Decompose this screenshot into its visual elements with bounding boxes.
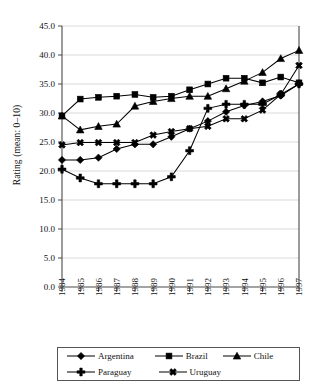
data-series <box>57 47 304 188</box>
y-tick-label: 15.0 <box>39 195 55 205</box>
legend-label-brazil: Brazil <box>184 351 208 361</box>
y-tick-label: 10.0 <box>39 224 55 234</box>
argentina-marker-icon <box>66 349 96 363</box>
legend-label-paraguay: Paraguay <box>96 367 132 377</box>
chart-legend: Argentina Brazil Chile Paraguay Uruguay <box>57 347 300 381</box>
y-tick-label: 5.0 <box>44 253 56 263</box>
series-chile <box>58 47 303 133</box>
legend-entry-uruguay[interactable]: Uruguay <box>158 364 222 380</box>
chile-marker-icon <box>222 349 252 363</box>
y-tick-label: 35.0 <box>39 79 55 89</box>
series-paraguay <box>58 80 303 188</box>
legend-entry-chile[interactable]: Chile <box>222 348 274 364</box>
legend-label-chile: Chile <box>252 351 274 361</box>
y-tick-label: 25.0 <box>39 137 55 147</box>
series-uruguay <box>57 60 304 150</box>
uruguay-marker-icon <box>158 365 188 379</box>
legend-entry-paraguay[interactable]: Paraguay <box>66 364 132 380</box>
legend-row-2: Paraguay Uruguay <box>58 364 299 380</box>
legend-label-argentina: Argentina <box>96 351 134 361</box>
y-tick-label: 20.0 <box>39 166 55 176</box>
legend-entry-brazil[interactable]: Brazil <box>154 348 208 364</box>
paraguay-marker-icon <box>66 365 96 379</box>
y-tick-label: 0.0 <box>44 282 56 292</box>
line-chart-plot: 0.05.010.015.020.025.030.035.040.045.0 1… <box>0 0 310 345</box>
y-axis-ticks: 0.05.010.015.020.025.030.035.040.045.0 <box>39 21 62 292</box>
legend-row-1: Argentina Brazil Chile <box>58 348 299 364</box>
legend-label-uruguay: Uruguay <box>188 367 222 377</box>
legend-entry-argentina[interactable]: Argentina <box>66 348 134 364</box>
y-tick-label: 40.0 <box>39 50 55 60</box>
y-tick-label: 45.0 <box>39 21 55 31</box>
chart-figure: Rating (mean: 0–10) 0.05.010.015.020.025… <box>0 0 310 390</box>
y-tick-label: 30.0 <box>39 108 55 118</box>
brazil-marker-icon <box>154 349 184 363</box>
